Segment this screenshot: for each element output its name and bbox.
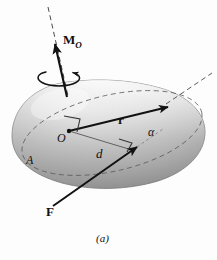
figure-container: MO r α O A d F (a) <box>0 0 217 260</box>
force-vector-label: F <box>46 205 54 218</box>
position-vector-label: r <box>118 113 124 126</box>
moment-axis-dashed-line <box>48 7 68 96</box>
angle-label: α <box>148 126 154 138</box>
moment-vector-label: MO <box>63 33 82 50</box>
mechanics-diagram <box>0 0 217 260</box>
body-label: A <box>26 154 33 166</box>
origin-point-label: O <box>57 132 66 144</box>
origin-point-dot <box>67 129 71 133</box>
moment-vector-letter: M <box>63 32 75 47</box>
moment-arm-label: d <box>96 147 103 160</box>
figure-caption: (a) <box>96 233 109 244</box>
rigid-body-shape <box>12 80 205 188</box>
moment-vector-subscript: O <box>75 40 82 50</box>
